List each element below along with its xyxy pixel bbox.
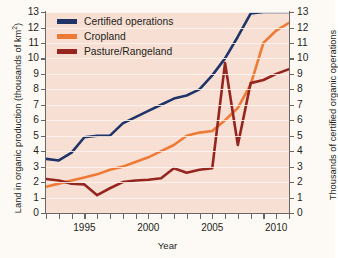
gridline [46, 74, 289, 75]
y-tick-left [41, 198, 45, 199]
y-tick-left [41, 182, 45, 183]
y-axis-left-title: Land in organic production (thousands of… [11, 13, 23, 223]
x-tick [212, 214, 213, 219]
y-tick-left [41, 28, 45, 29]
y-tick-right [290, 43, 294, 44]
x-tick [289, 214, 290, 219]
y-tick-left [41, 136, 45, 137]
legend-swatch [57, 19, 77, 24]
chart-legend: Certified operationsCroplandPasture/Rang… [57, 14, 173, 59]
x-tick [123, 214, 124, 219]
y-tick-label-right: 6 [297, 115, 303, 125]
y-tick-label-left: 3 [33, 162, 39, 172]
x-tick [251, 214, 252, 219]
y-tick-left [41, 151, 45, 152]
y-tick-label-right: 11 [297, 38, 308, 48]
x-tick [110, 214, 111, 219]
y-tick-label-right: 1 [297, 193, 303, 203]
y-tick-label-right: 2 [297, 177, 303, 187]
y-tick-right [290, 89, 294, 90]
gridline [46, 182, 289, 183]
y-tick-label-left: 12 [28, 23, 39, 33]
y-tick-left [41, 120, 45, 121]
y-tick-label-right: 0 [297, 208, 303, 218]
legend-item: Certified operations [57, 14, 173, 29]
x-tick-label: 2005 [192, 222, 232, 233]
y-tick-right [290, 105, 294, 106]
x-tick [225, 214, 226, 219]
y-tick-right [290, 58, 294, 59]
y-tick-label-left: 0 [33, 208, 39, 218]
x-tick-label: 2000 [128, 222, 168, 233]
y-tick-left [41, 105, 45, 106]
x-tick [72, 214, 73, 219]
legend-label: Pasture/Rangeland [84, 46, 172, 57]
y-tick-label-right: 12 [297, 23, 308, 33]
x-tick [187, 214, 188, 219]
y-tick-left [41, 167, 45, 168]
y-tick-right [290, 74, 294, 75]
series-line-pasture-rangeland [46, 63, 289, 195]
legend-item: Cropland [57, 29, 173, 44]
y-tick-label-left: 8 [33, 84, 39, 94]
x-tick [174, 214, 175, 219]
x-tick [161, 214, 162, 219]
x-tick [200, 214, 201, 219]
x-tick-label: 1995 [64, 222, 104, 233]
y-tick-left [41, 74, 45, 75]
y-tick-label-right: 9 [297, 69, 303, 79]
y-tick-label-left: 5 [33, 131, 39, 141]
x-tick [136, 214, 137, 219]
gridline [46, 105, 289, 106]
gridline [46, 151, 289, 152]
y-tick-right [290, 167, 294, 168]
y-tick-right [290, 213, 294, 214]
y-tick-label-left: 4 [33, 146, 39, 156]
x-tick [148, 214, 149, 219]
legend-swatch [57, 49, 77, 54]
y-tick-label-left: 1 [33, 193, 39, 203]
legend-item: Pasture/Rangeland [57, 44, 173, 59]
y-tick-label-left: 7 [33, 100, 39, 110]
y-tick-label-right: 7 [297, 100, 303, 110]
x-tick-label: 2010 [256, 222, 296, 233]
y-tick-label-right: 10 [297, 53, 308, 63]
y-tick-right [290, 198, 294, 199]
y-tick-right [290, 136, 294, 137]
y-tick-left [41, 213, 45, 214]
gridline [46, 167, 289, 168]
y-tick-right [290, 28, 294, 29]
legend-swatch [57, 34, 77, 39]
y-axis-left-title-main: Land in organic production (thousands of… [13, 30, 23, 213]
y-tick-right [290, 151, 294, 152]
y-tick-left [41, 12, 45, 13]
x-tick [97, 214, 98, 219]
x-axis-title: Year [0, 240, 335, 251]
y-axis-left-title-end: ) [13, 23, 23, 26]
y-tick-left [41, 43, 45, 44]
gridline [46, 120, 289, 121]
y-axis-right-title: Thousands of certified organic operation… [328, 10, 338, 220]
x-tick [59, 214, 60, 219]
y-tick-right [290, 182, 294, 183]
legend-label: Cropland [84, 31, 126, 42]
y-tick-right [290, 120, 294, 121]
gridline [46, 136, 289, 137]
y-tick-label-left: 6 [33, 115, 39, 125]
right-axis-spine [289, 11, 290, 214]
bottom-axis-spine [45, 213, 291, 214]
x-tick [46, 214, 47, 219]
y-tick-label-right: 4 [297, 146, 303, 156]
y-tick-label-left: 10 [28, 53, 39, 63]
x-tick [238, 214, 239, 219]
y-tick-label-left: 9 [33, 69, 39, 79]
y-tick-label-right: 3 [297, 162, 303, 172]
gridline [46, 89, 289, 90]
y-tick-label-left: 13 [28, 7, 39, 17]
y-tick-right [290, 12, 294, 13]
gridline [46, 198, 289, 199]
x-tick [84, 214, 85, 219]
y-tick-label-left: 11 [28, 38, 39, 48]
left-axis-spine [45, 11, 46, 214]
